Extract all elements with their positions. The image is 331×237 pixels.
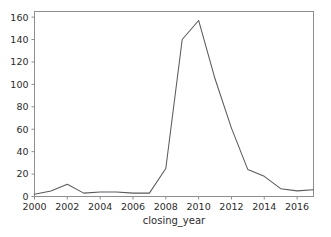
y-tick-label: 40	[16, 146, 28, 157]
x-tick-label: 2010	[187, 201, 211, 212]
x-tick-label: 2002	[55, 201, 79, 212]
y-tick-label: 20	[16, 168, 28, 179]
chart-figure: 020406080100120140160 200020022004200620…	[0, 0, 331, 237]
x-tick-label: 2012	[219, 201, 243, 212]
y-tick-label: 160	[10, 12, 28, 23]
x-tick-label: 2014	[252, 201, 276, 212]
x-tick-label: 2006	[121, 201, 145, 212]
y-tick-label: 100	[10, 79, 28, 90]
x-tick-label: 2000	[22, 201, 46, 212]
y-tick-label: 140	[10, 34, 28, 45]
line-chart: 020406080100120140160 200020022004200620…	[0, 0, 331, 237]
x-tick-label: 2004	[88, 201, 112, 212]
y-tick-label: 120	[10, 56, 28, 67]
x-tick-label: 2008	[154, 201, 178, 212]
y-tick-label: 60	[16, 124, 28, 135]
x-axis-title: closing_year	[143, 215, 206, 227]
x-tick-label: 2016	[285, 201, 309, 212]
y-tick-label: 80	[16, 101, 28, 112]
